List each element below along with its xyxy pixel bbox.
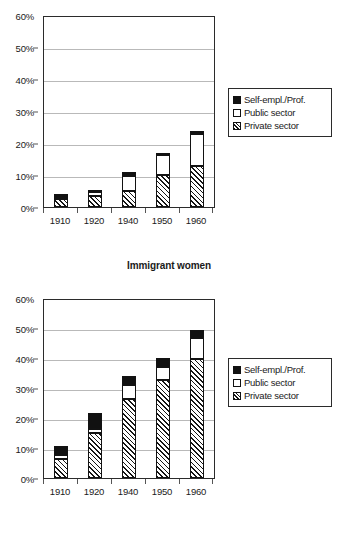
legend-1: Self-empl./Prof. Public sector Private s… (228, 88, 332, 137)
bar-1910 (54, 194, 68, 207)
bar-segment-private-sector (122, 399, 136, 478)
bar-segment-private-sector (190, 359, 204, 478)
x-tick-label: 1920 (84, 486, 104, 497)
x-tick-mark (179, 479, 180, 484)
legend-label: Public sector (244, 377, 295, 388)
legend-label: Private sector (244, 120, 299, 131)
legend-label: Self-empl./Prof. (244, 364, 305, 375)
bar-segment-self-empl (190, 131, 204, 134)
y-tick-mark (33, 329, 38, 330)
x-tick-label: 1920 (84, 215, 104, 226)
x-tick-mark (145, 479, 146, 484)
y-tick-label: 0% (21, 203, 34, 214)
y-tick-mark (33, 359, 38, 360)
bar-segment-public-sector (156, 367, 170, 381)
bar-segment-self-empl (156, 358, 170, 367)
bar-segment-self-empl (54, 446, 68, 455)
bar-segment-self-empl (190, 330, 204, 339)
bar-group-1 (44, 17, 214, 207)
legend-item-public-sector: Public sector (233, 106, 326, 119)
bar-segment-private-sector (88, 433, 102, 478)
bar-1920 (88, 413, 102, 478)
plot-area-2 (43, 299, 215, 479)
bar-segment-public-sector (122, 176, 136, 191)
bar-1940 (122, 172, 136, 207)
y-tick-label: 20% (16, 139, 34, 150)
x-tick-label: 1960 (186, 486, 206, 497)
legend-item-self-empl: Self-empl./Prof. (233, 93, 326, 106)
bar-1960 (190, 330, 204, 478)
bar-segment-public-sector (88, 192, 102, 196)
plot-wrap-1: 60% 50% 40% 30% 20% 10% 0% (0, 0, 230, 250)
y-tick-label: 30% (16, 107, 34, 118)
bar-segment-self-empl (54, 194, 68, 198)
legend-item-private-sector: Private sector (233, 119, 326, 132)
x-tick-mark (111, 208, 112, 213)
bar-1960 (190, 131, 204, 207)
x-tick-label: 1950 (152, 215, 172, 226)
solid-black-swatch-icon (233, 96, 241, 104)
y-axis-1: 60% 50% 40% 30% 20% 10% 0% (0, 0, 38, 250)
bar-segment-self-empl (122, 172, 136, 176)
white-swatch-icon (233, 109, 241, 117)
bar-segment-public-sector (156, 155, 170, 175)
y-tick-label: 60% (16, 11, 34, 22)
legend-item-private-sector: Private sector (233, 389, 326, 402)
figure-caption-immigrant-women: Immigrant women (0, 260, 338, 271)
y-tick-label: 20% (16, 414, 34, 425)
bar-1940 (122, 376, 136, 478)
y-tick-mark (33, 479, 38, 480)
y-tick-mark (33, 208, 38, 209)
hatched-swatch-icon (233, 122, 241, 130)
x-tick-label: 1910 (50, 215, 70, 226)
y-tick-mark (33, 176, 38, 177)
legend-item-self-empl: Self-empl./Prof. (233, 363, 326, 376)
x-tick-mark (212, 479, 213, 484)
bar-segment-private-sector (54, 199, 68, 207)
y-tick-label: 30% (16, 384, 34, 395)
bar-segment-public-sector (190, 134, 204, 166)
y-tick-mark (33, 389, 38, 390)
x-tick-mark (145, 208, 146, 213)
legend-item-public-sector: Public sector (233, 376, 326, 389)
x-tick-label: 1940 (118, 215, 138, 226)
y-tick-mark (33, 449, 38, 450)
bar-1920 (88, 190, 102, 207)
legend-label: Self-empl./Prof. (244, 94, 305, 105)
bar-segment-self-empl (88, 190, 102, 193)
y-tick-label: 10% (16, 444, 34, 455)
y-tick-mark (33, 80, 38, 81)
bar-segment-public-sector (190, 338, 204, 359)
bar-segment-private-sector (190, 166, 204, 207)
x-tick-label: 1910 (50, 486, 70, 497)
x-tick-label: 1940 (118, 486, 138, 497)
plot-area-1 (43, 16, 215, 208)
y-tick-label: 10% (16, 171, 34, 182)
y-tick-label: 0% (21, 474, 34, 485)
chart-second-panel: 60% 50% 40% 30% 20% 10% 0% (0, 285, 338, 520)
plot-wrap-2: 60% 50% 40% 30% 20% 10% 0% (0, 285, 230, 520)
hatched-swatch-icon (233, 392, 241, 400)
bar-segment-self-empl (122, 376, 136, 385)
y-axis-2: 60% 50% 40% 30% 20% 10% 0% (0, 285, 38, 520)
legend-2: Self-empl./Prof. Public sector Private s… (228, 358, 332, 407)
x-tick-mark (111, 479, 112, 484)
x-tick-mark (77, 208, 78, 213)
bar-1910 (54, 446, 68, 478)
white-swatch-icon (233, 379, 241, 387)
bar-1950 (156, 358, 170, 478)
chart-immigrant-women: 60% 50% 40% 30% 20% 10% 0% (0, 0, 338, 250)
x-tick-mark (43, 208, 44, 213)
legend-label: Public sector (244, 107, 295, 118)
bar-segment-public-sector (88, 429, 102, 433)
y-tick-mark (33, 144, 38, 145)
y-tick-label: 50% (16, 43, 34, 54)
y-tick-mark (33, 48, 38, 49)
y-tick-label: 60% (16, 294, 34, 305)
y-tick-label: 40% (16, 75, 34, 86)
legend-label: Private sector (244, 390, 299, 401)
bar-segment-self-empl (156, 153, 170, 156)
solid-black-swatch-icon (233, 366, 241, 374)
bar-group-2 (44, 300, 214, 478)
bar-segment-private-sector (54, 459, 68, 478)
